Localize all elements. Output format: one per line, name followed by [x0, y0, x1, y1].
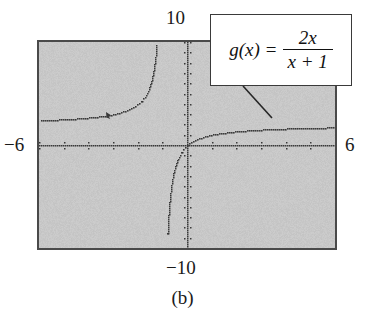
window-label-xmax: 6 [345, 135, 355, 154]
fraction-denominator: x + 1 [283, 50, 333, 72]
window-label-ymax: 10 [166, 8, 185, 27]
function-callout-box: g(x) = 2x x + 1 [210, 14, 352, 86]
figure-caption: (b) [0, 288, 365, 307]
window-label-ymin: −10 [166, 258, 196, 277]
graphing-calculator-figure: 10 −6 6 −10 g(x) = 2x x + 1 (b) [0, 0, 365, 318]
window-label-xmin: −6 [4, 135, 24, 154]
function-formula: g(x) = 2x x + 1 [229, 28, 333, 72]
fraction: 2x x + 1 [283, 28, 333, 72]
fraction-numerator: 2x [294, 28, 322, 49]
function-name: g(x) [229, 39, 260, 61]
equals-sign: = [264, 39, 279, 61]
